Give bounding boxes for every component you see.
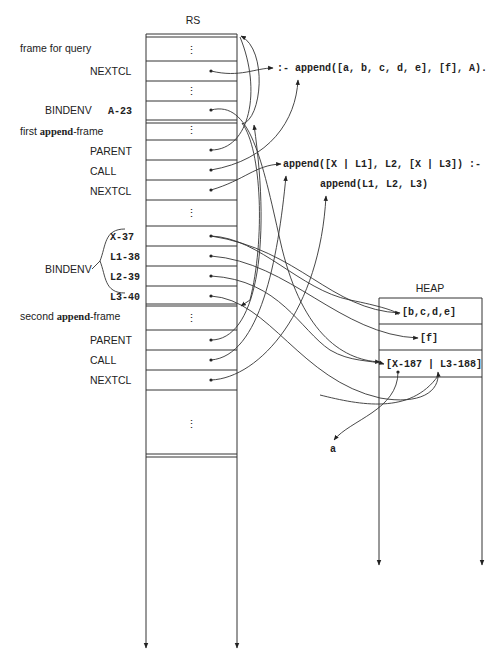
heap-title: HEAP	[416, 282, 445, 294]
rs-title: RS	[186, 14, 201, 26]
label-parent: PARENT	[90, 334, 132, 346]
atom-a: a	[330, 444, 336, 455]
clause-body-code: append(L1, L2, L3)	[320, 179, 428, 190]
label-parent: PARENT	[90, 145, 132, 157]
bindenv-var: X-37	[110, 232, 134, 243]
label-nextcl: NEXTCL	[90, 374, 132, 386]
label-nextcl: NEXTCL	[90, 65, 132, 77]
brace-tip	[92, 261, 100, 269]
rs-ellipsis: ⋮	[186, 85, 197, 97]
bindenv-var: L1-38	[110, 252, 140, 263]
bindenv-var: L3-40	[110, 292, 140, 303]
label-call: CALL	[90, 354, 116, 366]
pointer-arrows	[211, 36, 438, 440]
label-frame-for-query: frame for query	[20, 42, 92, 54]
label-bindenv: BINDENV	[45, 263, 92, 275]
heap-cell: [f]	[420, 333, 438, 344]
heap-cell: [b,c,d,e]	[402, 307, 456, 318]
label-second-append-frame: second append-frame	[20, 310, 121, 322]
label-first-append-frame: first append-frame	[20, 125, 104, 137]
bindenv-var: L2-39	[110, 272, 140, 283]
label-call: CALL	[90, 165, 116, 177]
label-nextcl: NEXTCL	[90, 185, 132, 197]
heap-cell: [X-187 | L3-188]	[386, 359, 482, 370]
query-code: :- append([a, b, c, d, e], [f], A).	[277, 63, 487, 74]
rs-ellipsis: ⋮	[186, 124, 197, 136]
label-bindenv-value: A-23	[108, 106, 132, 117]
rs-ellipsis: ⋮	[186, 44, 197, 56]
clause-head-code: append([X | L1], L2, [X | L3]) :-	[283, 159, 481, 170]
label-bindenv: BINDENV	[45, 104, 92, 116]
rs-ellipsis: ⋮	[186, 207, 197, 219]
rs-heap-diagram: RS ⋮ ⋮ ⋮ ⋮ ⋮ ⋮ frame for query NEXTC	[0, 0, 501, 658]
rs-ellipsis: ⋮	[186, 312, 197, 324]
rs-ellipsis: ⋮	[186, 418, 197, 430]
